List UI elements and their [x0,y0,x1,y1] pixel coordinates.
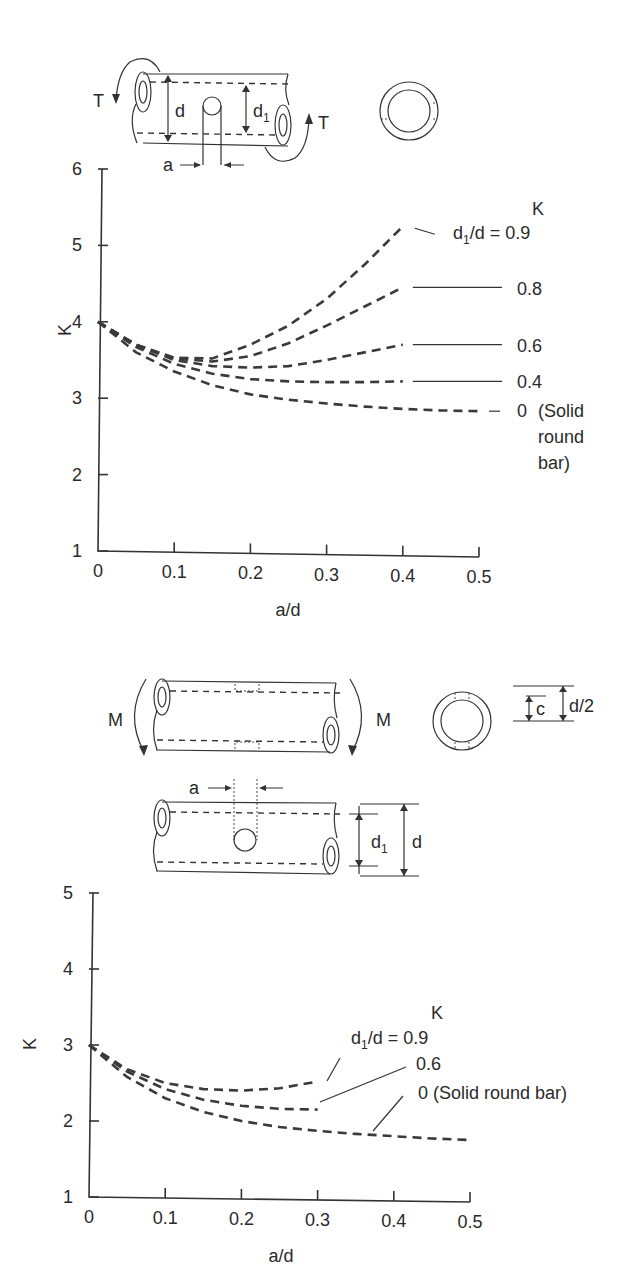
moment-label-right: M [376,710,391,730]
y-tick-label: 1 [63,1187,73,1207]
x-tick-label: 0.5 [466,567,491,587]
legend-label-1: 0.8 [517,279,542,299]
hole-diameter-label-bending: a [189,778,200,798]
x-tick-label: 0.1 [162,562,187,582]
c-dimension-label: c [536,699,545,719]
x-ticks: 00.10.20.30.40.5 [84,1188,483,1232]
curve-0-6 [98,322,403,368]
legend-title: K [431,1003,443,1023]
x-ticks: 00.10.20.30.40.5 [93,542,492,587]
y-tick-label: 5 [63,883,73,903]
x-tick-label: 0.3 [305,1210,330,1230]
curve-0-8 [98,287,403,361]
inner-diameter-label: d1 [253,101,270,125]
moment-label-left: M [108,710,123,730]
x-tick-label: 0.3 [314,565,339,585]
y-tick-label: 4 [63,959,73,979]
x-tick-label: 0.2 [238,563,263,583]
svg-text:(Solid: (Solid [538,401,584,421]
curve-0-6 [89,1045,318,1110]
x-tick-label: 0.5 [457,1212,482,1232]
legend-label-0: d1/d = 0.9 [351,1028,428,1052]
x-tick-label: 0.1 [153,1208,178,1228]
bending-cross-section-icon [433,686,574,750]
legend: Kd1/d = 0.90.80.60.40(Solidroundbar) [413,199,584,473]
outer-diameter-label: d [175,101,185,121]
legend-title: K [532,199,544,219]
curve-0-4 [98,322,403,382]
legend-label-0: d1/d = 0.9 [453,223,530,247]
curve-0-9 [89,1045,318,1091]
y-tick-label: 2 [63,1111,73,1131]
torsion-cross-section-icon [380,82,438,140]
x-tick-label: 0.2 [229,1209,254,1229]
torque-label-right: T [318,113,329,133]
y-tick-label: 5 [72,235,82,255]
legend-label-2: 0.6 [517,336,542,356]
y-tick-label: 6 [72,159,82,179]
svg-text:bar): bar) [538,453,570,473]
y-axis-label-top: K [55,324,75,336]
svg-text:round: round [538,427,584,447]
inner-diameter-label-bending: d1 [371,832,388,856]
x-tick-label: 0.4 [390,566,415,586]
y-ticks: 123456 [72,159,108,561]
torsion-chart: 123456 00.10.20.30.40.5 Kd1/d = 0.90.80.… [72,159,584,587]
figure-canvas: T T d d1 a 123456 00.10.20.30.40.5 Kd1/d… [0,0,628,1276]
legend-label-1: 0.6 [416,1054,441,1074]
y-axis-label-bottom: K [20,1038,40,1050]
curves [98,226,479,411]
outer-diameter-label-bending: d [412,832,422,852]
y-tick-label: 3 [63,1035,73,1055]
x-tick-label: 0.4 [381,1211,406,1231]
hole-diameter-label: a [163,155,174,175]
legend-label-3: 0.4 [517,372,542,392]
legend-label-4: 0 [517,401,527,421]
y-tick-label: 2 [72,465,82,485]
bending-chart: 12345 00.10.20.30.40.5 Kd1/d = 0.90.60 (… [63,883,567,1232]
half-diameter-label: d/2 [569,696,594,716]
y-tick-label: 1 [72,541,82,561]
torque-label-left: T [93,91,104,111]
curves [89,1045,470,1140]
curve-0-9 [98,226,403,358]
x-axis-label-top: a/d [275,600,300,620]
x-tick-label: 0 [84,1207,94,1227]
y-tick-label: 3 [72,388,82,408]
torsion-tube-diagram [112,59,313,168]
y-ticks: 12345 [63,883,99,1207]
curve-0 [89,1045,470,1140]
legend: Kd1/d = 0.90.60 (Solid round bar) [320,1003,567,1131]
x-axis-label-bottom: a/d [268,1246,293,1266]
legend-label-2: 0 (Solid round bar) [418,1083,567,1103]
x-tick-label: 0 [93,561,103,581]
